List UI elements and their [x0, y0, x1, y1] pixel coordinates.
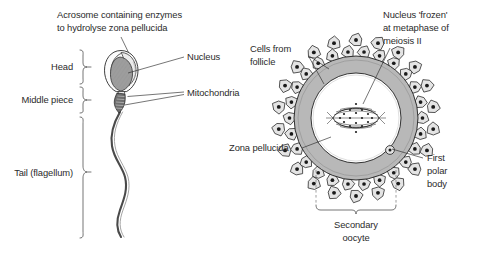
follicle-cell-nucleus — [396, 182, 400, 186]
label-oocyte-nucleus-line2: at metaphase of — [383, 22, 449, 33]
follicle-cell-nucleus — [288, 116, 292, 120]
follicle-cell-nucleus — [332, 41, 336, 45]
follicle-cell-nucleus — [431, 105, 435, 109]
follicle-cell-nucleus — [332, 191, 336, 195]
follicle-cell-nucleus — [396, 50, 400, 54]
label-zona-pellucida: Zona pellucida — [229, 142, 289, 153]
follicle-cell-nucleus — [331, 54, 335, 58]
follicle-cell-nucleus — [419, 132, 423, 136]
follicle-cell-nucleus — [362, 182, 366, 186]
follicle-cell-nucleus — [376, 191, 380, 195]
first-polar-body-shape — [386, 146, 395, 155]
label-head: Head — [51, 61, 73, 72]
follicle-cell-nucleus — [378, 54, 382, 58]
follicle-cell-nucleus — [346, 182, 350, 186]
follicle-cell-nucleus — [283, 84, 287, 88]
follicle-cell-nucleus — [421, 116, 425, 120]
follicle-cell-nucleus — [419, 100, 423, 104]
follicle-cell-nucleus — [354, 194, 358, 198]
follicle-cell-nucleus — [376, 41, 380, 45]
bracket-head — [80, 50, 87, 84]
follicle-cell-nucleus — [354, 38, 358, 42]
figure-canvas: Acrosome containing enzymes to hydrolyse… — [0, 0, 480, 257]
label-secondary-oocyte-line1: Secondary — [334, 219, 378, 230]
label-secondary-oocyte-line2: oocyte — [342, 232, 369, 243]
label-sperm-nucleus: Nucleus — [187, 51, 221, 62]
follicle-cell-nucleus — [295, 167, 299, 171]
follicle-cell-nucleus — [346, 50, 350, 54]
oocyte-drawing — [272, 33, 441, 203]
follicle-cell-nucleus — [413, 65, 417, 69]
sperm-cell-drawing — [105, 51, 139, 238]
follicle-cell-nucleus — [413, 147, 417, 151]
sperm-tail-shape — [111, 112, 129, 237]
bracket-tail — [80, 117, 87, 238]
follicle-cell-nucleus — [425, 84, 429, 88]
follicle-cell-nucleus — [404, 160, 408, 164]
label-first-polar-body-line3: body — [427, 178, 447, 189]
label-acrosome-line1: Acrosome containing enzymes — [57, 9, 182, 20]
follicle-cell-nucleus — [413, 85, 417, 89]
follicle-cell-nucleus — [404, 72, 408, 76]
follicle-cell-nucleus — [290, 100, 294, 104]
follicle-cell-nucleus — [277, 105, 281, 109]
label-cells-from-follicle-line2: follicle — [250, 56, 275, 67]
follicle-cell-nucleus — [392, 61, 396, 65]
follicle-cell-nucleus — [290, 132, 294, 136]
biology-figure: Acrosome containing enzymes to hydrolyse… — [0, 0, 480, 257]
follicle-cell-nucleus — [295, 85, 299, 89]
follicle-cell-nucleus — [277, 127, 281, 131]
follicle-cell-nucleus — [304, 160, 308, 164]
label-first-polar-body-line1: First — [427, 152, 445, 163]
follicle-cell-nucleus — [304, 72, 308, 76]
label-tail: Tail (flagellum) — [14, 167, 73, 178]
label-first-polar-body-line2: polar — [427, 165, 447, 176]
follicle-cell-nucleus — [312, 50, 316, 54]
follicle-cell-nucleus — [331, 178, 335, 182]
label-oocyte-nucleus-line1: Nucleus 'frozen' — [383, 9, 448, 20]
follicle-cell-nucleus — [392, 171, 396, 175]
follicle-cell-nucleus — [312, 182, 316, 186]
bracket-secondary-oocyte — [316, 205, 396, 214]
bracket-middle-piece — [80, 87, 87, 113]
label-cells-from-follicle-line1: Cells from — [250, 43, 291, 54]
follicle-cell-nucleus — [316, 171, 320, 175]
label-acrosome-line2: to hydrolyse zona pellucida — [57, 22, 168, 33]
follicle-cell-nucleus — [362, 50, 366, 54]
follicle-cell-nucleus — [413, 167, 417, 171]
sperm-middle-piece-shape — [114, 93, 125, 113]
follicle-cell-nucleus — [431, 127, 435, 131]
label-mitochondria: Mitochondria — [187, 87, 240, 98]
sperm-brackets — [80, 50, 91, 238]
label-middle-piece: Middle piece — [22, 94, 73, 105]
label-oocyte-nucleus-line3: meiosis II — [383, 35, 422, 46]
follicle-cell-nucleus — [295, 147, 299, 151]
follicle-cell-nucleus — [378, 178, 382, 182]
follicle-cell-nucleus — [295, 65, 299, 69]
